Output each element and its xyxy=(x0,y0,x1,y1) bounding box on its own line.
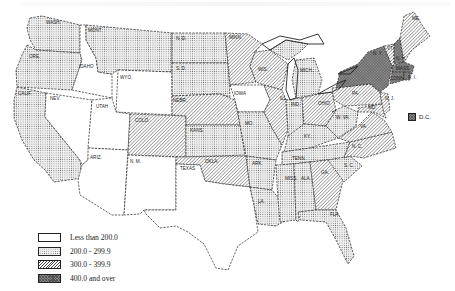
label-fla: FLA. xyxy=(330,212,340,217)
label-vt: VT. xyxy=(387,46,394,51)
label-nev: NEV. xyxy=(50,96,60,101)
label-la: LA. xyxy=(258,199,265,204)
label-nc: N. C. xyxy=(352,144,362,149)
label-me: ME. xyxy=(412,16,420,21)
legend-label: Less than 200.0 xyxy=(70,233,118,242)
legend-swatch-crosshatch xyxy=(38,274,61,283)
dc-inset: D.C. xyxy=(408,113,431,121)
label-md: MD. xyxy=(368,105,376,110)
state-fla xyxy=(298,210,354,264)
label-utah: UTAH xyxy=(96,104,108,109)
label-idaho: IDAHO xyxy=(79,64,94,69)
label-minn: MINN. xyxy=(229,35,242,40)
legend-item-200-299: 200.0 - 299.9 xyxy=(38,245,118,259)
label-mass: MASS. xyxy=(396,66,410,71)
label-nh: N. H. xyxy=(396,56,406,61)
label-nd: N. D. xyxy=(176,36,186,41)
label-ill: ILL. xyxy=(280,96,288,101)
map-legend: Less than 200.0 200.0 - 299.9 300.0 - 39… xyxy=(38,231,118,285)
label-iowa: IOWA xyxy=(234,91,247,96)
label-ga: GA. xyxy=(321,170,329,175)
label-mont: MONT. xyxy=(88,28,102,33)
label-ala: ALA. xyxy=(301,176,311,181)
label-nj: N. J. xyxy=(385,96,394,101)
label-ore: ORE. xyxy=(29,54,40,59)
label-tenn: TENN. xyxy=(292,156,306,161)
label-nm: N. M. xyxy=(130,159,141,164)
label-ri: R. I. xyxy=(408,75,416,80)
label-sc: S. C. xyxy=(344,163,354,168)
label-sd: S. D. xyxy=(176,66,186,71)
label-ind: IND. xyxy=(291,102,300,107)
label-mich: MICH. xyxy=(300,68,313,73)
legend-label: 300.0 - 399.9 xyxy=(70,260,111,269)
legend-item-400-plus: 400.0 and over xyxy=(38,272,118,286)
legend-swatch-stipple xyxy=(38,247,61,256)
legend-label: 200.0 - 299.9 xyxy=(70,247,111,256)
label-wyo: WYO. xyxy=(120,75,132,80)
legend-swatch-blank xyxy=(38,233,61,242)
label-colo: COLO. xyxy=(135,118,149,123)
label-conn: CONN. xyxy=(390,76,405,81)
label-ky: KY. xyxy=(304,134,311,139)
label-mo: MO. xyxy=(245,121,254,126)
label-wis: WIS. xyxy=(258,67,268,72)
legend-swatch-hatch xyxy=(38,260,61,269)
label-ohio: OHIO xyxy=(318,101,330,106)
label-wash: WASH. xyxy=(46,20,61,25)
label-wva: W. VA. xyxy=(336,115,350,120)
label-texas: TEXAS xyxy=(180,166,195,171)
legend-item-less-than-200: Less than 200.0 xyxy=(38,231,118,245)
label-nebr: NEBR. xyxy=(173,98,187,103)
label-va: VA. xyxy=(360,124,367,129)
state-nm xyxy=(124,155,176,215)
label-ariz: ARIZ. xyxy=(90,155,102,160)
state-miss xyxy=(276,164,296,222)
label-pa: PA. xyxy=(352,91,359,96)
label-calif: CALIF. xyxy=(18,91,32,96)
label-ark: ARK. xyxy=(252,161,263,166)
dc-swatch xyxy=(408,113,416,121)
legend-item-300-399: 300.0 - 399.9 xyxy=(38,258,118,272)
label-miss: MISS. xyxy=(285,176,298,181)
label-okla: OKLA. xyxy=(205,159,219,164)
legend-label: 400.0 and over xyxy=(70,274,115,283)
label-kans: KANS. xyxy=(190,128,204,133)
dc-label: D.C. xyxy=(419,114,431,120)
label-ny: N. Y. xyxy=(373,51,383,56)
